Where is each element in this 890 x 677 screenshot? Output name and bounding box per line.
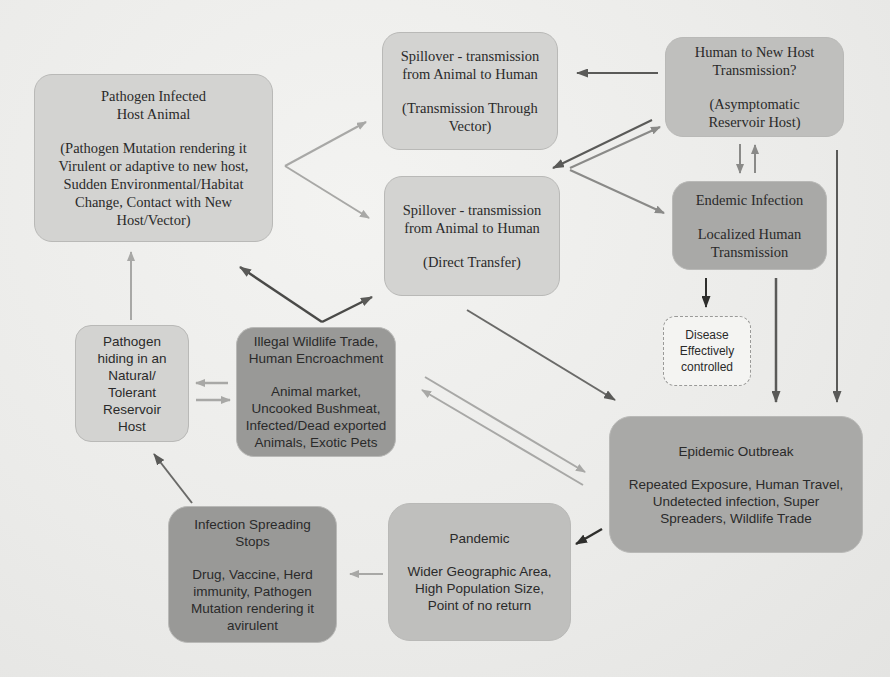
node-body-line: Localized Human [698, 225, 801, 243]
node-title-line: Stops [235, 533, 270, 550]
node-title-line: Disease [685, 327, 728, 343]
node-body-line: Reservoir Host) [708, 113, 800, 131]
node-body-line: avirulent [227, 617, 278, 634]
arrow-stops-to-reservoir [154, 454, 192, 503]
node-spillover-direct: Spillover - transmission from Animal to … [384, 176, 560, 296]
node-title-line: Host Animal [117, 105, 191, 123]
node-body-line: Mutation rendering it [191, 600, 314, 617]
arrow-trade-to-host-and-spillover [240, 267, 372, 322]
node-spreading-stops: Infection Spreading Stops Drug, Vaccine,… [168, 506, 337, 643]
node-epidemic: Epidemic Outbreak Repeated Exposure, Hum… [609, 416, 863, 553]
node-title-line: Illegal Wildlife Trade, [254, 333, 379, 350]
node-title-line: Human to New Host [695, 43, 815, 61]
node-body-line: (Direct Transfer) [423, 253, 521, 271]
node-title-line: Human Encroachment [249, 350, 383, 367]
node-title-line: Infection Spreading [194, 516, 310, 533]
node-pandemic: Pandemic Wider Geographic Area, High Pop… [388, 503, 571, 641]
node-title-line: Tolerant [108, 384, 156, 401]
node-body-line: Wider Geographic Area, [407, 563, 551, 580]
node-title-line: Pathogen [103, 333, 161, 350]
arrow-host-to-spillovers [285, 122, 369, 218]
node-title-line: Transmission? [712, 61, 796, 79]
node-body-line: Drug, Vaccine, Herd [192, 566, 313, 583]
node-illegal-trade: Illegal Wildlife Trade, Human Encroachme… [236, 327, 396, 457]
node-body-line: Point of no return [428, 597, 532, 614]
node-body-line: (Pathogen Mutation rendering it [60, 139, 246, 157]
node-title-line: Spillover - transmission [403, 201, 542, 219]
node-body-line: High Population Size, [415, 580, 544, 597]
node-title-line: Endemic Infection [696, 191, 804, 209]
node-body-line: Uncooked Bushmeat, [251, 400, 380, 417]
node-body-line: Spreaders, Wildlife Trade [660, 510, 812, 527]
node-body-line: Virulent or adaptive to new host, [58, 157, 248, 175]
arrow-epidemic-to-pandemic [576, 529, 602, 544]
node-title-line: Pathogen Infected [101, 87, 206, 105]
node-body-line: Change, Contact with New [75, 193, 232, 211]
node-body-line: Infected/Dead exported [246, 417, 386, 434]
node-body-line: Animals, Exotic Pets [254, 434, 377, 451]
node-body-line: (Transmission Through [402, 99, 538, 117]
node-title-line: Epidemic Outbreak [679, 443, 794, 460]
node-human-to-new-host: Human to New Host Transmission? (Asympto… [665, 37, 844, 137]
node-body-line: Sudden Environmental/Habitat [63, 175, 243, 193]
node-host-animal: Pathogen Infected Host Animal (Pathogen … [34, 74, 273, 242]
diagram-canvas: Pathogen Infected Host Animal (Pathogen … [0, 0, 890, 677]
node-disease-controlled: Disease Effectively controlled [663, 316, 751, 386]
node-title-line: Effectively [680, 343, 734, 359]
arrow-spillover-direct-to-epidemic [467, 310, 615, 400]
node-body-line: Repeated Exposure, Human Travel, [629, 476, 844, 493]
node-title-line: from Animal to Human [404, 219, 540, 237]
node-title-line: Reservoir [103, 401, 161, 418]
node-spillover-vector: Spillover - transmission from Animal to … [382, 32, 558, 150]
node-body-line: Vector) [449, 117, 492, 135]
arrow-spillover-direct-to-newhost [570, 127, 660, 168]
node-body-line: Host/Vector) [116, 211, 190, 229]
arrow-epidemic-to-trade [422, 390, 583, 485]
node-title-line: Pandemic [449, 530, 509, 547]
node-body-line: immunity, Pathogen [193, 583, 311, 600]
node-title-line: Host [118, 418, 146, 435]
node-title-line: from Animal to Human [402, 65, 538, 83]
node-reservoir-host: Pathogen hiding in an Natural/ Tolerant … [75, 325, 189, 442]
node-title-line: Spillover - transmission [401, 47, 540, 65]
node-body-line: Transmission [711, 243, 789, 261]
node-body-line: Animal market, [271, 383, 361, 400]
node-title-line: Natural/ [108, 367, 155, 384]
node-body-line: Undetected infection, Super [653, 493, 820, 510]
node-title-line: hiding in an [97, 350, 166, 367]
node-body-line: (Asymptomatic [709, 95, 799, 113]
arrow-newhost-to-spillover-direct [553, 120, 652, 168]
node-title-line: controlled [681, 359, 733, 375]
arrow-spillover-direct-to-endemic [570, 170, 664, 213]
arrow-trade-to-epidemic [425, 377, 585, 472]
node-endemic: Endemic Infection Localized Human Transm… [672, 181, 827, 270]
